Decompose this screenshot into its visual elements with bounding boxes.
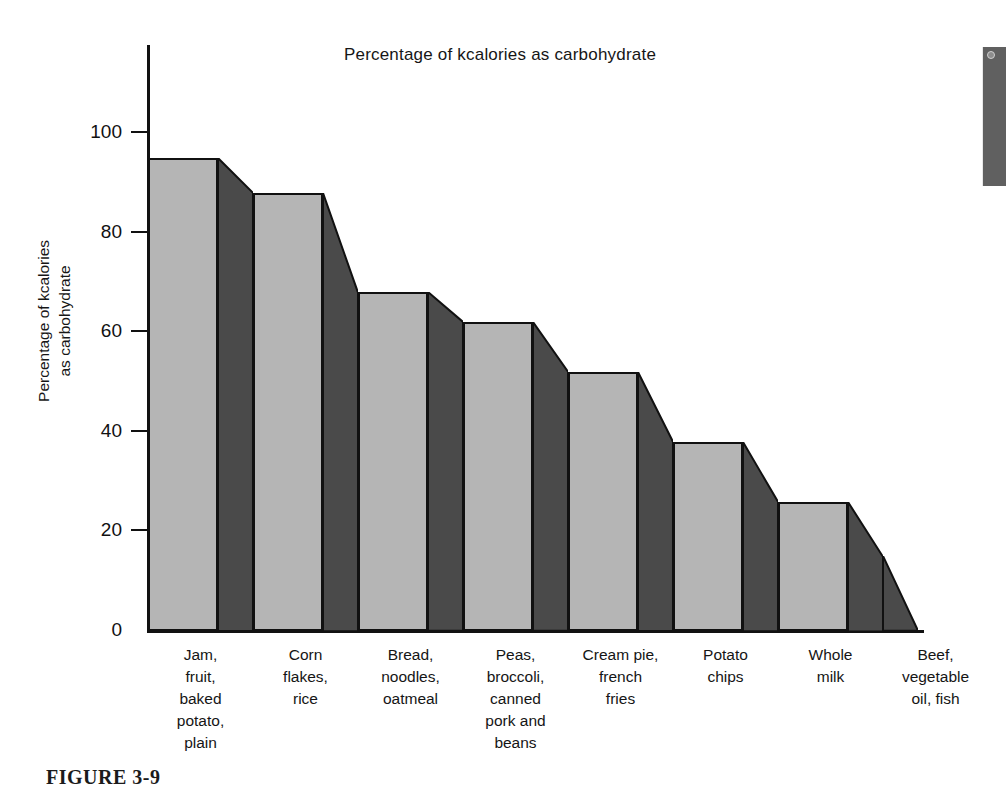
x-axis-label: Potatochips xyxy=(665,644,786,688)
y-axis-title-line-1: Percentage of kcalories xyxy=(34,206,55,436)
x-axis-label-line: rice xyxy=(245,688,366,710)
x-axis-label-line: oil, fish xyxy=(875,688,996,710)
x-axis-label-line: Jam, xyxy=(140,644,261,666)
bar-side-face xyxy=(743,442,778,631)
bar-side-face xyxy=(428,292,463,631)
figure-page: Percentage of kcalories as carbohydrate … xyxy=(0,0,1006,787)
x-axis-label-line: beans xyxy=(455,732,576,754)
y-axis-tick-label: 100 xyxy=(62,122,122,141)
x-axis-label-line: pork and xyxy=(455,710,576,732)
x-axis-label-line: Cream pie, xyxy=(560,644,681,666)
bar-front-face xyxy=(568,372,638,631)
y-axis-tick-label: 0 xyxy=(62,620,122,639)
y-axis-tick xyxy=(131,529,147,531)
x-axis-label-line: vegetable xyxy=(875,666,996,688)
bar-front-face xyxy=(148,158,218,631)
y-axis-tick-label: 40 xyxy=(62,421,122,440)
bar xyxy=(253,193,358,631)
x-axis-label-line: noodles, xyxy=(350,666,471,688)
x-axis-label-line: fruit, xyxy=(140,666,261,688)
bar-side-face xyxy=(218,158,253,631)
x-axis-label-line: Bread, xyxy=(350,644,471,666)
x-axis-label-line: canned xyxy=(455,688,576,710)
bar-front-face xyxy=(673,442,743,631)
x-axis-label-line: Whole xyxy=(770,644,891,666)
bars-container xyxy=(148,45,924,631)
y-axis-tick xyxy=(131,231,147,233)
x-axis-label: Cornflakes,rice xyxy=(245,644,366,710)
y-axis-tick-label: 80 xyxy=(62,222,122,241)
bar xyxy=(358,292,463,631)
x-axis-label: Wholemilk xyxy=(770,644,891,688)
x-axis-label-line: plain xyxy=(140,732,261,754)
bar-side-face xyxy=(533,322,568,631)
figure-caption: FIGURE 3-9 xyxy=(46,766,160,787)
bar xyxy=(673,442,778,631)
x-axis-label: Peas,broccoli,cannedpork andbeans xyxy=(455,644,576,754)
x-axis-label-line: Potato xyxy=(665,644,786,666)
bar xyxy=(883,556,988,631)
bar-front-face xyxy=(778,502,848,631)
x-axis-label: Cream pie,frenchfries xyxy=(560,644,681,710)
bar xyxy=(148,158,253,631)
y-axis-tick xyxy=(131,131,147,133)
bar xyxy=(463,322,568,631)
x-axis-label-line: flakes, xyxy=(245,666,366,688)
x-axis-label-line: Corn xyxy=(245,644,366,666)
bar-front-face xyxy=(358,292,428,631)
x-axis-label: Beef,vegetableoil, fish xyxy=(875,644,996,710)
x-axis-label-line: oatmeal xyxy=(350,688,471,710)
x-axis-label-line: french xyxy=(560,666,681,688)
x-axis-label: Jam,fruit,bakedpotato,plain xyxy=(140,644,261,754)
bar-side-face xyxy=(848,502,883,631)
bar-front-face xyxy=(463,322,533,631)
x-axis-label-line: broccoli, xyxy=(455,666,576,688)
y-axis-tick-label: 60 xyxy=(62,321,122,340)
bar-side-face xyxy=(638,372,673,631)
x-axis-label-line: chips xyxy=(665,666,786,688)
bar xyxy=(778,502,883,631)
y-axis-tick xyxy=(131,430,147,432)
x-axis-label-line: fries xyxy=(560,688,681,710)
x-axis-label-line: Peas, xyxy=(455,644,576,666)
x-axis-label: Bread,noodles,oatmeal xyxy=(350,644,471,710)
bar-chart: Percentage of kcalories as carbohydrate … xyxy=(0,0,1006,770)
bar-front-face xyxy=(253,193,323,631)
y-axis-tick-label: 20 xyxy=(62,520,122,539)
bar-side-face xyxy=(883,556,918,631)
y-axis-tick xyxy=(131,330,147,332)
x-axis-label-line: milk xyxy=(770,666,891,688)
x-axis-label-line: potato, xyxy=(140,710,261,732)
bar-side-face xyxy=(323,193,358,631)
x-axis-label-line: Beef, xyxy=(875,644,996,666)
x-axis-label-line: baked xyxy=(140,688,261,710)
bar xyxy=(568,372,673,631)
